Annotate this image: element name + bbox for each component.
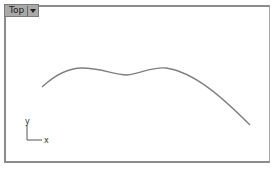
x-axis-label: x: [44, 136, 49, 145]
y-axis-label: y: [25, 117, 30, 126]
curve[interactable]: [42, 68, 250, 125]
axis-widget: y x: [25, 117, 49, 145]
viewport-scene: y x: [0, 0, 273, 169]
